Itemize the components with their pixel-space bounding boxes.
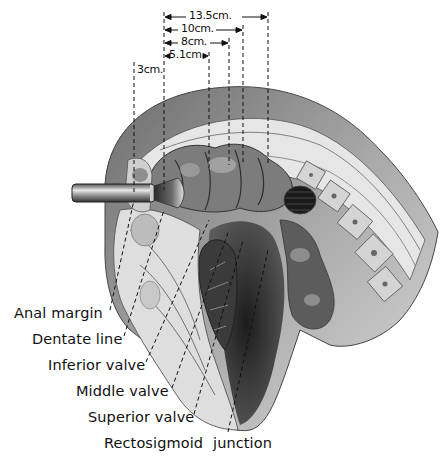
label-rectosigmoid: Rectosigmoid: [104, 435, 203, 451]
label-inferior-valve: Inferior valve: [48, 357, 145, 373]
label-dentate-line: Dentate line: [32, 331, 122, 347]
label-superior-valve: Superior valve: [88, 409, 194, 425]
measurement-label-8cm: 8cm.: [181, 35, 207, 48]
measurement-label-3cm: 3cm.: [137, 63, 163, 76]
rectal-anatomy-illustration: [0, 0, 445, 465]
proctoscope-tube: [72, 184, 154, 202]
measurement-label-5-1cm: 5.1cm.: [169, 48, 205, 61]
measurement-label-10cm: 10cm.: [181, 22, 214, 35]
label-anal-margin: Anal margin: [14, 305, 103, 321]
measurement-label-13-5cm: 13.5cm.: [189, 9, 232, 22]
label-middle-valve: Middle valve: [76, 383, 169, 399]
label-junction: junction: [213, 435, 272, 451]
